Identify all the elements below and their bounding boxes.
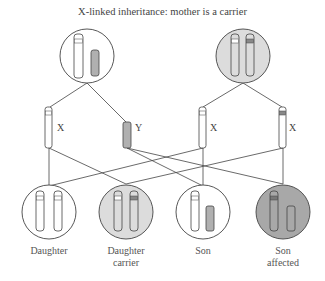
- label-line2: affected: [243, 257, 323, 269]
- gamete-label-mother-x2: X: [289, 122, 297, 133]
- label-line1: Daughter: [9, 245, 89, 257]
- mother-x-normal: [231, 34, 239, 76]
- label-line2: carrier: [86, 257, 166, 269]
- parent-gamete-lines: [50, 83, 282, 122]
- label-daughter-carrier: Daughter carrier: [86, 245, 166, 269]
- offspring-son: [176, 185, 230, 239]
- label-line1: Son: [243, 245, 323, 257]
- label-son-affected: Son affected: [243, 245, 323, 269]
- gamete-mother-x-carrier: [279, 107, 286, 148]
- label-line1: Daughter: [86, 245, 166, 257]
- gamete-offspring-lines: [49, 148, 283, 186]
- gamete-father-x: [45, 107, 52, 148]
- gamete-label-mother-x1: X: [210, 122, 218, 133]
- gamete-labels: X Y X X: [57, 122, 297, 133]
- offspring-son-affected: [256, 185, 310, 239]
- offspring-daughter: [22, 185, 76, 239]
- label-son: Son: [163, 245, 243, 257]
- gamete-label-father-y: Y: [135, 122, 142, 133]
- mother-circle: [216, 29, 270, 83]
- father-circle: [60, 29, 114, 83]
- gamete-mother-x-normal: [199, 107, 206, 148]
- inheritance-diagram: X Y X X: [0, 0, 325, 281]
- offspring-daughter-carrier: [99, 185, 153, 239]
- mother-x-carrier: [246, 34, 254, 76]
- label-daughter: Daughter: [9, 245, 89, 257]
- gamete-label-father-x: X: [57, 122, 65, 133]
- father-y-chromosome: [91, 50, 99, 76]
- father-x-chromosome: [74, 34, 83, 78]
- label-line1: Son: [163, 245, 243, 257]
- gamete-father-y: [123, 122, 131, 148]
